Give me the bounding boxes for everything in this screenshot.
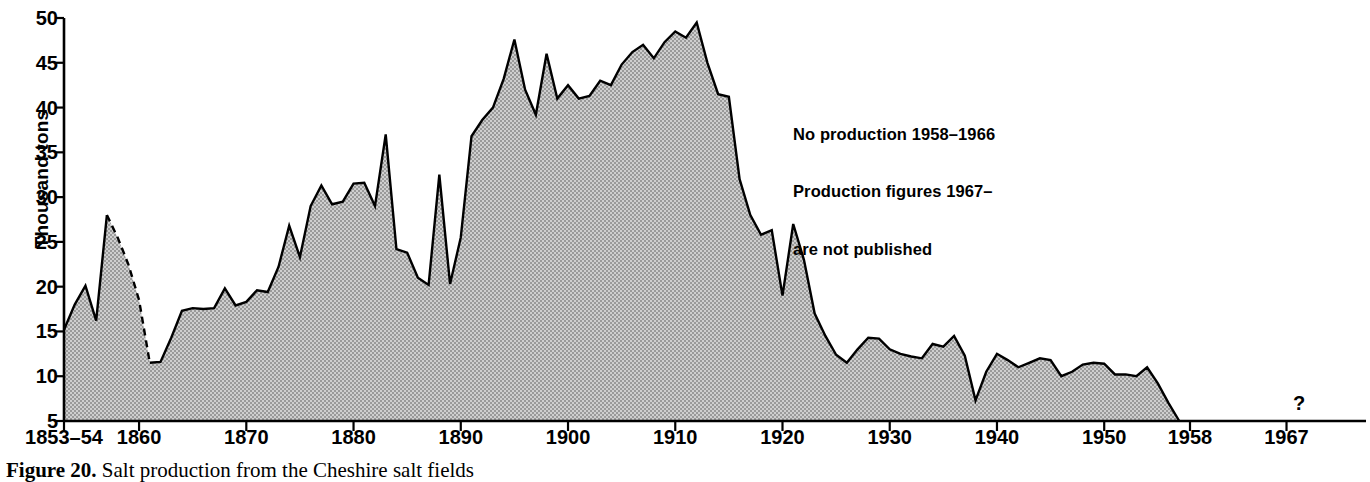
no-production-annotation: No production 1958–1966 Production figur… bbox=[793, 86, 995, 298]
y-tick-label: 40 bbox=[24, 98, 58, 118]
y-tick-label: 50 bbox=[24, 8, 58, 28]
y-tick-label: 30 bbox=[24, 187, 58, 207]
data-area-series bbox=[64, 22, 1179, 421]
x-tick-label: 1900 bbox=[546, 427, 591, 447]
x-tick-label: 1920 bbox=[760, 427, 805, 447]
figure-salt-production: Thousand tons 5101520253035404550 bbox=[0, 0, 1370, 482]
figure-caption-label: Figure 20. bbox=[6, 458, 97, 482]
x-tick-label: 1910 bbox=[653, 427, 698, 447]
chart-plot-area bbox=[0, 0, 1370, 482]
x-tick-label: 1940 bbox=[975, 427, 1020, 447]
figure-caption-text: Salt production from the Cheshire salt f… bbox=[102, 458, 474, 482]
x-tick-label: 1950 bbox=[1082, 427, 1127, 447]
x-tick-label: 1880 bbox=[331, 427, 376, 447]
x-tick-label: 1870 bbox=[224, 427, 269, 447]
annotation-line-3: are not published bbox=[793, 240, 995, 259]
figure-caption: Figure 20. Salt production from the Ches… bbox=[6, 459, 474, 482]
annotation-line-2: Production figures 1967– bbox=[793, 182, 995, 201]
x-tick-label: 1853–54 bbox=[25, 427, 103, 447]
y-tick-label: 45 bbox=[24, 53, 58, 73]
x-tick-label: 1967 bbox=[1264, 427, 1309, 447]
x-tick-label: 1890 bbox=[439, 427, 484, 447]
y-tick-label: 35 bbox=[24, 142, 58, 162]
y-tick-label: 10 bbox=[24, 366, 58, 386]
unknown-data-question-mark: ? bbox=[1293, 393, 1305, 413]
x-tick-label: 1930 bbox=[867, 427, 912, 447]
y-tick-label: 25 bbox=[24, 232, 58, 252]
x-tick-label: 1958 bbox=[1168, 427, 1213, 447]
y-tick-label: 20 bbox=[24, 277, 58, 297]
x-tick-label: 1860 bbox=[117, 427, 162, 447]
y-axis-tick-labels: 5101520253035404550 bbox=[0, 0, 58, 482]
y-tick-label: 15 bbox=[24, 321, 58, 341]
annotation-line-1: No production 1958–1966 bbox=[793, 125, 995, 144]
